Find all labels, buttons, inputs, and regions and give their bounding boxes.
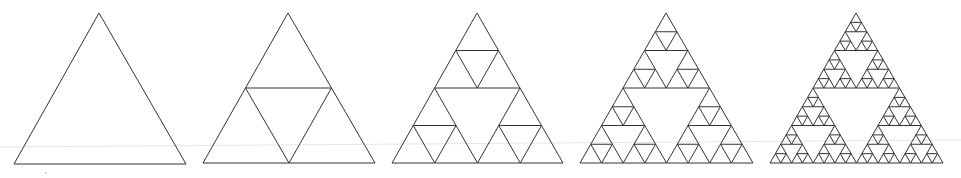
- triangle-outline: [824, 154, 835, 163]
- triangle-outline: [612, 88, 634, 107]
- sierpinski-iteration-1: [203, 13, 375, 163]
- triangle-outline: [645, 32, 667, 51]
- sierpinski-iteration-3: [580, 13, 753, 163]
- scan-artifact-line: [0, 140, 961, 147]
- sierpinski-iteration-0: [14, 13, 186, 164]
- triangle-outline: [927, 144, 938, 153]
- triangle-outline: [867, 154, 878, 163]
- triangle-outline: [14, 13, 186, 164]
- triangle-outline: [856, 79, 867, 88]
- triangle-outline: [677, 51, 699, 70]
- triangle-outline: [835, 41, 846, 50]
- triangle-outline: [824, 116, 835, 125]
- triangle-outline: [889, 97, 900, 106]
- triangle-outline: [840, 69, 851, 78]
- triangle-outline: [884, 144, 895, 153]
- triangle-outline: [883, 107, 894, 116]
- triangle-outline: [824, 60, 835, 69]
- triangle-outline: [932, 154, 943, 163]
- triangle-outline: [889, 79, 900, 88]
- triangle-outline: [246, 13, 332, 88]
- triangle-outline: [591, 126, 613, 145]
- triangle-outline: [623, 69, 645, 88]
- triangle-outline: [775, 144, 786, 153]
- triangle-outline: [845, 41, 856, 50]
- triangle-outline: [666, 69, 688, 88]
- triangle-outline: [862, 144, 873, 153]
- triangle-outline: [856, 22, 867, 31]
- triangle-outline: [856, 41, 867, 50]
- triangle-outline: [710, 144, 732, 163]
- triangle-outline: [645, 69, 667, 88]
- triangle-outline: [802, 154, 813, 163]
- triangle-outline: [889, 116, 900, 125]
- triangle-outline: [478, 126, 521, 164]
- triangle-outline: [846, 154, 857, 163]
- triangle-outline: [667, 144, 689, 163]
- triangle-outline: [835, 60, 846, 69]
- sierpinski-diagram: [0, 0, 961, 178]
- triangle-outline: [862, 69, 873, 78]
- triangle-outline: [602, 107, 624, 126]
- triangle-outline: [921, 154, 932, 163]
- triangle-outline: [731, 144, 753, 163]
- triangle-outline: [867, 60, 878, 69]
- triangle-outline: [900, 97, 911, 106]
- triangle-outline: [851, 13, 862, 22]
- triangle-outline: [835, 79, 846, 88]
- triangle-outline: [905, 107, 916, 116]
- triangle-outline: [835, 135, 846, 144]
- triangle-outline: [477, 51, 520, 89]
- triangle-outline: [781, 154, 792, 163]
- triangle-outline: [289, 88, 375, 163]
- triangle-outline: [710, 107, 732, 126]
- triangle-outline: [878, 60, 889, 69]
- triangle-outline: [456, 13, 499, 51]
- triangle-outline: [666, 32, 688, 51]
- triangle-outline: [867, 41, 878, 50]
- triangle-outline: [813, 154, 824, 163]
- triangle-outline: [829, 51, 840, 60]
- triangle-outline: [413, 88, 456, 126]
- triangle-outline: [878, 116, 889, 125]
- triangle-outline: [580, 144, 602, 163]
- triangle-outline: [862, 32, 873, 41]
- triangle-outline: [889, 154, 900, 163]
- triangle-outline: [781, 135, 792, 144]
- triangle-outline: [905, 144, 916, 153]
- triangle-outline: [786, 126, 797, 135]
- triangle-outline: [878, 154, 889, 163]
- triangle-outline: [792, 135, 803, 144]
- triangle-outline: [688, 144, 710, 163]
- triangle-outline: [435, 51, 478, 89]
- triangle-outline: [520, 126, 563, 164]
- triangle-outline: [857, 154, 868, 163]
- triangle-outline: [911, 154, 922, 163]
- triangle-outline: [645, 144, 667, 163]
- triangle-outline: [910, 116, 921, 125]
- triangle-outline: [840, 32, 851, 41]
- triangle-outline: [688, 69, 710, 88]
- triangle-outline: [873, 126, 884, 135]
- triangle-outline: [824, 79, 835, 88]
- triangle-outline: [835, 154, 846, 163]
- triangle-outline: [602, 144, 624, 163]
- triangle-outline: [921, 135, 932, 144]
- triangle-outline: [845, 22, 856, 31]
- triangle-outline: [819, 107, 830, 116]
- triangle-outline: [845, 79, 856, 88]
- triangle-outline: [792, 116, 803, 125]
- triangle-outline: [634, 126, 656, 145]
- triangle-outline: [872, 51, 883, 60]
- triangle-outline: [634, 51, 656, 70]
- triangle-outline: [840, 144, 851, 153]
- triangle-outline: [792, 154, 803, 163]
- triangle-outline: [770, 154, 781, 163]
- triangle-outline: [900, 154, 911, 163]
- triangle-outline: [867, 135, 878, 144]
- triangle-outline: [819, 144, 830, 153]
- triangle-outline: [797, 107, 808, 116]
- triangle-outline: [878, 135, 889, 144]
- triangle-outline: [802, 116, 813, 125]
- triangle-outline: [894, 88, 905, 97]
